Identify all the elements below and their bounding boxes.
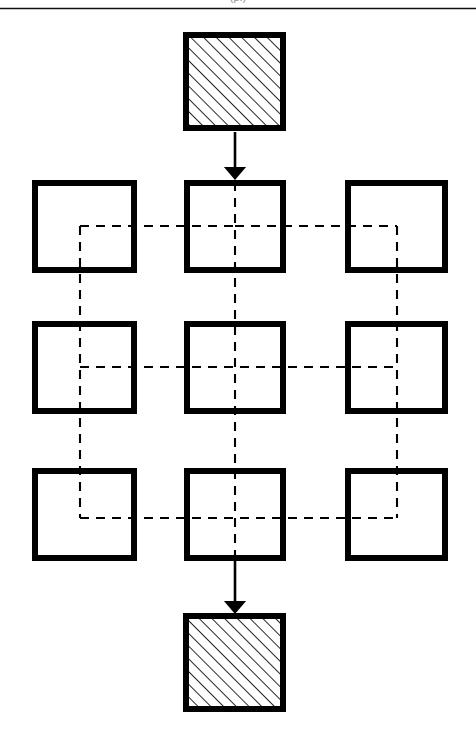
output-hatched-block[interactable] (186, 616, 283, 709)
grid-cell-r3c2[interactable] (187, 471, 283, 558)
grid-cell-r2c3[interactable] (348, 324, 445, 411)
grid-cell-r3c1[interactable] (35, 471, 134, 558)
diagram-page: (p.) (0, 0, 476, 742)
block-grid (35, 183, 445, 558)
input-hatched-block[interactable] (186, 35, 283, 128)
block-diagram-canvas (0, 0, 476, 742)
